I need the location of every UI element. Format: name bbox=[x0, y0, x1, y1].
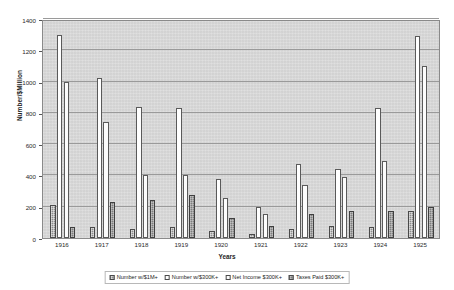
x-tick-label-1916: 1916 bbox=[42, 241, 82, 249]
bar-1923-series-2 bbox=[342, 177, 347, 238]
plot-area bbox=[42, 20, 440, 239]
y-tick-label-1400: 1400 bbox=[6, 17, 36, 24]
x-axis-ticks: 1916191719181919192019211922192319241925 bbox=[42, 241, 440, 251]
bar-1923-series-3 bbox=[349, 211, 354, 238]
y-axis-title: Number/$Million bbox=[16, 41, 23, 151]
bar-1918-series-0 bbox=[130, 229, 135, 238]
x-tick-label-1921: 1921 bbox=[241, 241, 281, 249]
bar-group-1921 bbox=[242, 21, 282, 238]
bar-1917-series-2 bbox=[103, 122, 108, 238]
bar-1916-series-0 bbox=[50, 205, 55, 238]
chart-legend: Number w/$1M+Number w/$300K+Net Income $… bbox=[105, 271, 350, 284]
x-tick-label-1917: 1917 bbox=[82, 241, 122, 249]
bar-1923-series-0 bbox=[329, 226, 334, 238]
bar-1920-series-3 bbox=[229, 218, 234, 238]
bar-chart: 0200400600800100012001400 Number/$Millio… bbox=[0, 0, 454, 290]
x-tick-label-1923: 1923 bbox=[321, 241, 361, 249]
bar-group-1925 bbox=[401, 21, 441, 238]
bar-1922-series-1 bbox=[296, 164, 301, 238]
legend-swatch-icon-0 bbox=[110, 275, 115, 280]
bar-1924-series-1 bbox=[375, 108, 380, 238]
bar-1916-series-2 bbox=[64, 82, 69, 238]
legend-swatch-icon-3 bbox=[289, 275, 294, 280]
legend-label-2: Net Income $300K+ bbox=[232, 274, 282, 281]
bar-group-1916 bbox=[43, 21, 83, 238]
bar-group-1922 bbox=[282, 21, 322, 238]
legend-label-3: Taxes Paid $300K+ bbox=[296, 274, 344, 281]
bar-1919-series-0 bbox=[170, 227, 175, 238]
bar-1925-series-2 bbox=[422, 66, 427, 238]
bar-1921-series-2 bbox=[263, 214, 268, 238]
bar-group-1919 bbox=[162, 21, 202, 238]
bar-1917-series-3 bbox=[110, 202, 115, 238]
bar-1924-series-3 bbox=[388, 211, 393, 238]
bar-group-1923 bbox=[322, 21, 362, 238]
bar-1924-series-0 bbox=[369, 227, 374, 238]
bar-1922-series-0 bbox=[289, 229, 294, 238]
legend-item-2[interactable]: Net Income $300K+ bbox=[225, 274, 282, 281]
x-tick-label-1918: 1918 bbox=[122, 241, 162, 249]
bar-1925-series-1 bbox=[415, 36, 420, 238]
bar-group-1917 bbox=[83, 21, 123, 238]
legend-swatch-icon-1 bbox=[165, 275, 170, 280]
bar-1925-series-0 bbox=[408, 211, 413, 238]
bar-1921-series-0 bbox=[249, 234, 254, 238]
bar-group-1918 bbox=[123, 21, 163, 238]
bar-1920-series-0 bbox=[209, 231, 214, 238]
legend-label-1: Number w/$300K+ bbox=[172, 274, 219, 281]
y-tick-label-0: 0 bbox=[6, 236, 36, 243]
x-tick-label-1924: 1924 bbox=[360, 241, 400, 249]
y-tick-label-400: 400 bbox=[6, 173, 36, 180]
legend-item-1[interactable]: Number w/$300K+ bbox=[165, 274, 219, 281]
bar-1925-series-3 bbox=[428, 207, 433, 238]
bar-1920-series-2 bbox=[223, 198, 228, 238]
y-tick-label-200: 200 bbox=[6, 204, 36, 211]
bar-1922-series-3 bbox=[309, 214, 314, 238]
x-tick-label-1925: 1925 bbox=[400, 241, 440, 249]
legend-label-0: Number w/$1M+ bbox=[117, 274, 158, 281]
bar-1919-series-2 bbox=[183, 175, 188, 238]
bar-1921-series-1 bbox=[256, 207, 261, 238]
bar-group-1924 bbox=[361, 21, 401, 238]
legend-item-3[interactable]: Taxes Paid $300K+ bbox=[289, 274, 344, 281]
bar-1918-series-1 bbox=[136, 107, 141, 238]
gridline-1400 bbox=[43, 18, 439, 19]
bar-1924-series-2 bbox=[382, 161, 387, 238]
bar-1918-series-3 bbox=[150, 200, 155, 238]
x-tick-label-1919: 1919 bbox=[161, 241, 201, 249]
bar-1919-series-1 bbox=[176, 108, 181, 238]
bar-1922-series-2 bbox=[302, 185, 307, 238]
bar-1916-series-3 bbox=[70, 227, 75, 238]
bar-1917-series-0 bbox=[90, 227, 95, 238]
bar-1920-series-1 bbox=[216, 179, 221, 238]
x-tick-label-1922: 1922 bbox=[281, 241, 321, 249]
bar-group-1920 bbox=[202, 21, 242, 238]
y-tick-mark-0 bbox=[39, 239, 42, 240]
bar-1917-series-1 bbox=[97, 78, 102, 238]
bar-1918-series-2 bbox=[143, 175, 148, 238]
bar-1916-series-1 bbox=[57, 35, 62, 238]
bar-1921-series-3 bbox=[269, 226, 274, 238]
bar-1923-series-1 bbox=[335, 169, 340, 238]
legend-swatch-icon-2 bbox=[225, 275, 230, 280]
x-axis-title: Years bbox=[0, 253, 454, 260]
bar-1919-series-3 bbox=[189, 195, 194, 238]
x-tick-label-1920: 1920 bbox=[201, 241, 241, 249]
legend-item-0[interactable]: Number w/$1M+ bbox=[110, 274, 158, 281]
